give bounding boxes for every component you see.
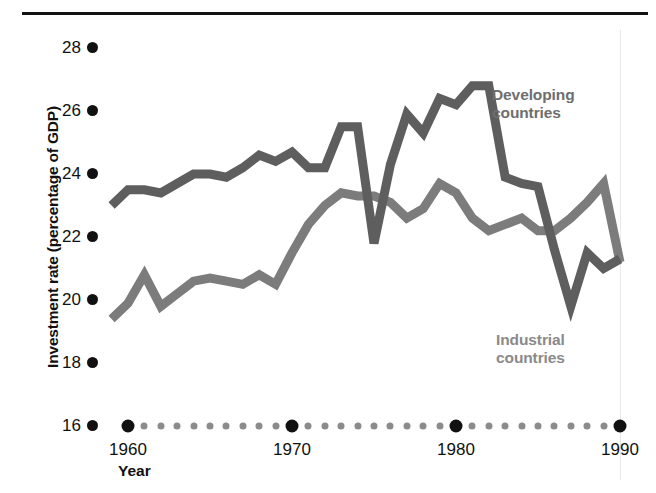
x-axis-minor-tick-1975 bbox=[371, 423, 378, 430]
y-axis-tick-label: 18 bbox=[62, 354, 81, 371]
y-axis-tick-24: 24 bbox=[58, 165, 98, 182]
x-axis-tick-label-1970: 1970 bbox=[273, 440, 311, 460]
x-axis-minor-tick-1988 bbox=[584, 423, 591, 430]
series-annotation-industrial: Industrial countries bbox=[496, 331, 565, 367]
x-axis-tick-label-1990: 1990 bbox=[601, 440, 639, 460]
x-axis-minor-tick-1984 bbox=[518, 423, 525, 430]
x-axis-minor-tick-1978 bbox=[420, 423, 427, 430]
x-axis-minor-tick-1981 bbox=[469, 423, 476, 430]
y-axis-tick-label: 20 bbox=[62, 291, 81, 308]
y-axis-tick-label: 16 bbox=[62, 417, 81, 434]
y-axis-tick-dot bbox=[87, 357, 98, 368]
x-axis-title: Year bbox=[118, 462, 151, 480]
x-axis-minor-tick-1966 bbox=[223, 423, 230, 430]
x-axis-minor-tick-1976 bbox=[387, 423, 394, 430]
x-axis-minor-tick-1972 bbox=[321, 423, 328, 430]
y-axis-tick-dot bbox=[87, 105, 98, 116]
y-axis-tick-20: 20 bbox=[58, 291, 98, 308]
chart-figure: Investment rate (percentage of GDP) Year… bbox=[0, 0, 656, 493]
y-axis-tick-label: 22 bbox=[62, 228, 81, 245]
x-axis-tick-label-1980: 1980 bbox=[437, 440, 475, 460]
y-axis-tick-dot bbox=[87, 168, 98, 179]
x-axis-minor-tick-1963 bbox=[174, 423, 181, 430]
x-axis-minor-tick-1979 bbox=[436, 423, 443, 430]
x-axis-minor-tick-1985 bbox=[535, 423, 542, 430]
x-axis-major-tick-1990 bbox=[614, 420, 627, 433]
top-rule-divider bbox=[22, 12, 648, 15]
x-axis-tick-label-1960: 1960 bbox=[109, 440, 147, 460]
y-axis-tick-dot bbox=[87, 294, 98, 305]
x-axis-minor-tick-1974 bbox=[354, 423, 361, 430]
x-axis-major-tick-1970 bbox=[286, 420, 299, 433]
y-axis-tick-label: 28 bbox=[62, 39, 81, 56]
series-annotation-developing: Developing countries bbox=[492, 86, 575, 122]
x-axis-minor-tick-1965 bbox=[207, 423, 214, 430]
x-axis-minor-tick-1968 bbox=[256, 423, 263, 430]
y-axis-tick-dot bbox=[87, 420, 98, 431]
x-axis-minor-tick-1989 bbox=[600, 423, 607, 430]
x-axis-minor-tick-1983 bbox=[502, 423, 509, 430]
plot-area bbox=[0, 0, 656, 493]
y-axis-tick-22: 22 bbox=[58, 228, 98, 245]
x-axis-minor-tick-1961 bbox=[141, 423, 148, 430]
x-axis-minor-tick-1962 bbox=[157, 423, 164, 430]
x-axis-minor-tick-1973 bbox=[338, 423, 345, 430]
series-line-industrial bbox=[112, 184, 620, 319]
x-axis-major-tick-1980 bbox=[450, 420, 463, 433]
x-axis-major-tick-1960 bbox=[122, 420, 135, 433]
x-axis-minor-tick-1969 bbox=[272, 423, 279, 430]
y-axis-tick-18: 18 bbox=[58, 354, 98, 371]
y-axis-tick-label: 24 bbox=[62, 165, 81, 182]
x-axis-minor-tick-1971 bbox=[305, 423, 312, 430]
x-axis-minor-tick-1986 bbox=[551, 423, 558, 430]
x-axis-minor-tick-1982 bbox=[485, 423, 492, 430]
y-axis-tick-16: 16 bbox=[58, 417, 98, 434]
x-axis-minor-tick-1967 bbox=[239, 423, 246, 430]
y-axis-tick-26: 26 bbox=[58, 102, 98, 119]
x-axis-minor-tick-1977 bbox=[403, 423, 410, 430]
y-axis-tick-28: 28 bbox=[58, 39, 98, 56]
right-faint-rule bbox=[620, 30, 621, 480]
y-axis-tick-label: 26 bbox=[62, 102, 81, 119]
x-axis-minor-tick-1964 bbox=[190, 423, 197, 430]
y-axis-tick-dot bbox=[87, 231, 98, 242]
x-axis-minor-tick-1987 bbox=[567, 423, 574, 430]
y-axis-tick-dot bbox=[87, 42, 98, 53]
